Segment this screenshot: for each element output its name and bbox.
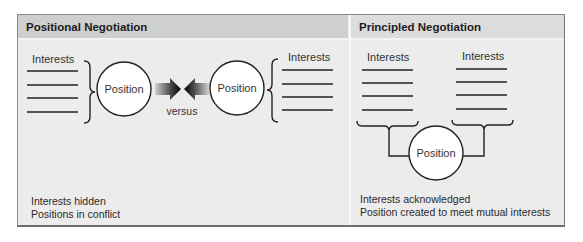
principled-right-interests: Interests	[452, 50, 513, 156]
left-curly-brace-icon	[267, 59, 278, 122]
interests-label: Interests	[367, 51, 410, 63]
positional-right-interests: Interests	[267, 51, 333, 122]
principled-position: Position	[409, 126, 463, 180]
caption-line: Position created to meet mutual interest…	[360, 206, 550, 219]
position-label: Position	[416, 147, 455, 159]
caption-line: Positions in conflict	[31, 208, 120, 221]
caption-line: Interests acknowledged	[360, 193, 550, 206]
position-label: Position	[217, 82, 256, 94]
connector-line	[463, 130, 484, 156]
caption-line: Interests hidden	[31, 195, 120, 208]
connector-line	[389, 131, 409, 156]
interests-label: Interests	[32, 53, 75, 65]
position-label: Position	[104, 83, 143, 95]
positional-caption: Interests hidden Positions in conflict	[31, 195, 120, 220]
bottom-curly-brace-icon	[357, 121, 418, 131]
positional-left-interests: Interests	[27, 53, 95, 123]
principled-left-interests: Interests	[357, 51, 418, 156]
bottom-curly-brace-icon	[452, 120, 513, 130]
principled-caption: Interests acknowledged Position created …	[360, 193, 550, 218]
opposing-arrows-icon	[155, 78, 209, 100]
right-curly-brace-icon	[84, 61, 95, 123]
positional-left-position: Position	[97, 62, 151, 116]
interests-label: Interests	[462, 50, 505, 62]
interests-label: Interests	[288, 51, 331, 63]
positional-right-position: Position	[210, 61, 264, 115]
versus-label: versus	[167, 105, 198, 117]
